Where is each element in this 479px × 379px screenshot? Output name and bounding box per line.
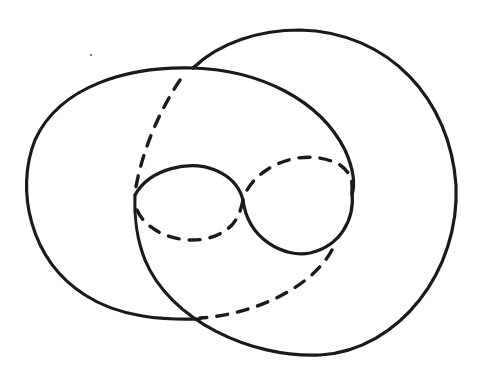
figure-eight-left-lobe-bottom bbox=[137, 200, 243, 240]
left-oval-right-arc bbox=[193, 68, 354, 195]
diagram-canvas bbox=[0, 0, 479, 379]
figure-eight-left-lobe-top bbox=[135, 166, 243, 200]
left-oval bbox=[27, 68, 200, 319]
figure-eight-right-lobe-bottom bbox=[243, 192, 352, 254]
right-circle bbox=[135, 30, 456, 355]
figure-eight-right-lobe-top bbox=[247, 157, 352, 192]
lower-hidden-arc bbox=[200, 250, 332, 318]
ink-speck bbox=[90, 54, 92, 56]
